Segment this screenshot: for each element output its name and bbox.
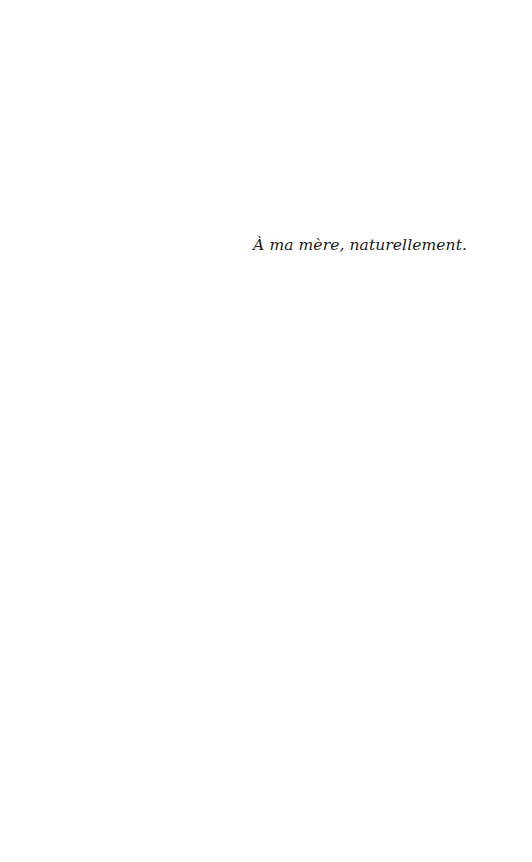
dedication-text: À ma mère, naturellement. xyxy=(253,233,467,257)
book-page: À ma mère, naturellement. xyxy=(0,0,532,862)
